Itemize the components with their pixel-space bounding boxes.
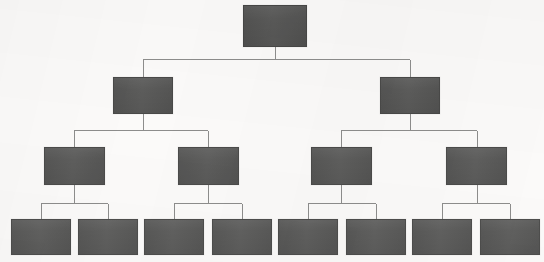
tree-node-n10[interactable] (144, 219, 204, 255)
tree-node-n6[interactable] (311, 147, 372, 185)
tree-node-n11[interactable] (212, 219, 272, 255)
tree-node-n15[interactable] (480, 219, 540, 255)
tree-node-n9[interactable] (78, 219, 138, 255)
tree-node-n12[interactable] (278, 219, 338, 255)
tree-node-n2[interactable] (113, 77, 173, 114)
tree-node-n8[interactable] (11, 219, 71, 255)
tree-node-n1[interactable] (243, 5, 307, 47)
tree-node-n13[interactable] (346, 219, 406, 255)
tree-node-n4[interactable] (44, 147, 105, 185)
tree-node-n3[interactable] (380, 77, 440, 114)
tree-node-n5[interactable] (178, 147, 239, 185)
tree-node-n7[interactable] (446, 147, 507, 185)
tree-node-n14[interactable] (412, 219, 472, 255)
tree-diagram-canvas (0, 0, 544, 262)
